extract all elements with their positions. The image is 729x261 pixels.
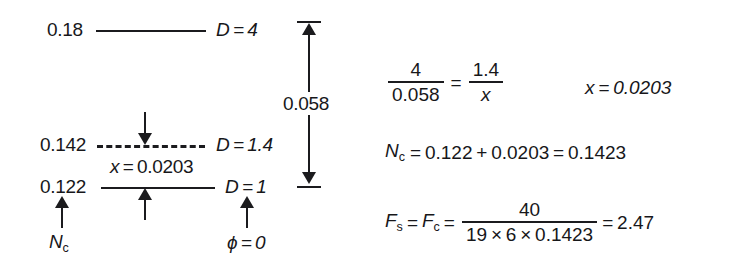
phi-up-arrow-head: [240, 196, 254, 208]
delta-down-arrow-shaft: [144, 112, 146, 134]
delta-x-text: = 0.0203: [119, 156, 193, 177]
center-up-arrow-head: [138, 188, 152, 200]
fs-result: = 2.47: [602, 213, 654, 232]
level-line-2: [101, 187, 215, 189]
equals-sign-3b: =: [444, 213, 455, 232]
equals-sign-1: =: [451, 73, 462, 92]
x-result: x = 0.0203: [585, 78, 671, 97]
fs-symbol: Fs: [385, 211, 403, 233]
fc-symbol: Fc: [422, 211, 440, 233]
level-value-0: 0.18: [47, 20, 83, 39]
nc-axis-label: Nc: [49, 232, 69, 254]
dimension-value-label: 0.058: [283, 92, 329, 115]
delta-x-label: xx = 0.0203 = 0.0203: [110, 157, 193, 176]
level-depth-label-2: D = 1: [225, 177, 267, 196]
dimension-arrow-head-bottom: [302, 172, 316, 184]
fraction-right-1: 1.4 x: [469, 60, 503, 104]
nc-symbol-sub: c: [399, 150, 405, 164]
dimension-tick-bottom: [297, 186, 321, 188]
nc-up-arrow-head: [55, 196, 69, 208]
denominator-2: x: [477, 83, 495, 104]
numerator-1: 4: [406, 60, 425, 81]
delta-down-arrow-head: [138, 133, 152, 145]
level-line-0: [96, 30, 206, 32]
denominator-3: 19 × 6 × 0.1423: [462, 223, 597, 244]
equation-1: 4 0.058 = 1.4 x: [385, 60, 506, 104]
level-value-2: 0.122: [40, 177, 86, 196]
denominator-1: 0.058: [388, 83, 444, 104]
nc-sub: c: [62, 241, 68, 255]
equation-3: Fs = Fc = 40 19 × 6 × 0.1423 = 2.47: [385, 200, 654, 244]
level-depth-label-0: D = 4: [216, 20, 258, 39]
fc-symbol-sub: c: [434, 219, 440, 233]
numerator-2: 1.4: [469, 60, 503, 81]
fraction-left-1: 4 0.058: [388, 60, 444, 104]
nc-symbol-base: N: [385, 140, 399, 161]
fraction-3: 40 19 × 6 × 0.1423: [462, 200, 597, 244]
level-line-1: [97, 145, 205, 148]
nc-up-arrow-shaft: [61, 206, 63, 228]
fc-symbol-base: F: [422, 210, 434, 231]
level-depth-label-1: D = 1.4: [216, 135, 273, 154]
equation-2: Nc = 0.122 + 0.0203 = 0.1423: [385, 141, 628, 163]
fs-symbol-sub: s: [397, 219, 403, 233]
phi-axis-label: ϕ = 0: [227, 233, 265, 252]
center-up-arrow-shaft: [144, 198, 146, 220]
level-value-1: 0.142: [40, 135, 86, 154]
phi-up-arrow-shaft: [246, 206, 248, 228]
nc-base: N: [49, 231, 62, 252]
figure-canvas: 0.18 D = 4 0.142 D = 1.4 0.122 D = 1 xx …: [0, 0, 729, 261]
nc-symbol: Nc: [385, 141, 405, 163]
nc-equation-body: = 0.122 + 0.0203 = 0.1423: [410, 143, 626, 162]
equation-1-result: x = 0.0203: [585, 78, 671, 97]
fs-symbol-base: F: [385, 210, 397, 231]
numerator-3: 40: [515, 200, 544, 221]
equals-sign-3a: =: [407, 213, 418, 232]
